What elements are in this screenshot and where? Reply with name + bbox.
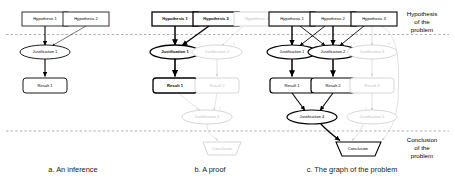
figure-container: Hypothesis of the problem Conclusion of … (0, 0, 455, 183)
result-3-label: Result 3 (364, 83, 380, 88)
result-1-label: Result 1 (284, 83, 300, 88)
hypothesis-2-label: Hypothesis 2 (74, 16, 98, 21)
conclusion-label: Conclusion (348, 146, 369, 151)
hypothesis-2-label: Hypothesis 2 (203, 16, 229, 21)
hypothesis-band-label-line1: Hypothesis (407, 10, 438, 17)
justification-4-label: Justification 4 (300, 114, 326, 119)
conclusion-band-label-line2: of the (414, 144, 430, 151)
hypothesis-3-label: Hypothesis 3 (362, 16, 386, 21)
node-justification-1[interactable]: Justification 1 (20, 45, 70, 59)
node-hypothesis-1[interactable]: Hypothesis 1 (269, 12, 315, 26)
node-result-3[interactable]: Result 3 (350, 78, 394, 93)
justification-2-label: Justification 2 (321, 49, 347, 54)
hypothesis-1-label: Hypothesis 1 (280, 16, 304, 21)
node-conclusion[interactable]: Conclusion (336, 142, 381, 156)
conclusion-band-label-line3: problem (411, 152, 433, 159)
node-hypothesis-2[interactable]: Hypothesis 2 (63, 12, 109, 26)
node-result-1[interactable]: Result 1 (23, 78, 67, 93)
justification-4-label: Justification 4 (195, 114, 221, 119)
node-result-2[interactable]: Result 2 (311, 78, 355, 93)
node-justification-2[interactable]: Justification 2 (192, 45, 242, 59)
node-hypothesis-2[interactable]: Hypothesis 2 (193, 12, 239, 26)
justification-1-label: Justification 1 (33, 49, 59, 54)
node-hypothesis-3[interactable]: Hypothesis 3 (351, 12, 397, 26)
hypothesis-band-label-line3: problem (411, 26, 433, 33)
result-1-label: Result 1 (167, 83, 184, 88)
hypothesis-1-label: Hypothesis 1 (162, 16, 188, 21)
node-justification-3[interactable]: Justification 3 (347, 45, 397, 59)
justification-2-label: Justification 2 (205, 49, 231, 54)
panel-b-caption: b. A proof (194, 165, 226, 174)
justification-5-label: Justification 5 (360, 114, 386, 119)
node-conclusion[interactable]: Conclusion (203, 142, 241, 155)
justification-3-label: Justification 3 (360, 49, 386, 54)
node-justification-5[interactable]: Justification 5 (347, 110, 397, 124)
node-hypothesis-1[interactable]: Hypothesis 1 (22, 12, 68, 26)
panel-a-caption: a. An inference (48, 165, 97, 174)
result-2-label: Result 2 (325, 83, 341, 88)
node-result-1[interactable]: Result 1 (153, 78, 197, 93)
panel-c-caption: c. The graph of the problem (307, 165, 398, 174)
node-hypothesis-2[interactable]: Hypothesis 2 (310, 12, 356, 26)
hypothesis-band-label-line2: of the (414, 18, 430, 25)
problem-graph-diagram: Hypothesis of the problem Conclusion of … (0, 0, 455, 183)
justification-1-label: Justification 1 (161, 49, 189, 54)
conclusion-label: Conclusion (212, 146, 233, 151)
result-2-label: Result 2 (209, 83, 225, 88)
justification-1-label: Justification 1 (280, 49, 306, 54)
hypothesis-2-label: Hypothesis 2 (321, 16, 345, 21)
node-hypothesis-1[interactable]: Hypothesis 1 (152, 12, 198, 26)
hypothesis-3-label: Hypothesis 3 (245, 16, 269, 21)
node-result-1[interactable]: Result 1 (270, 78, 314, 93)
conclusion-band-label-line1: Conclusion (407, 136, 438, 143)
hypothesis-1-label: Hypothesis 1 (33, 16, 57, 21)
node-result-2[interactable]: Result 2 (195, 78, 239, 93)
result-1-label: Result 1 (37, 83, 53, 88)
node-justification-4[interactable]: Justification 4 (287, 110, 337, 124)
node-justification-4[interactable]: Justification 4 (182, 110, 232, 124)
